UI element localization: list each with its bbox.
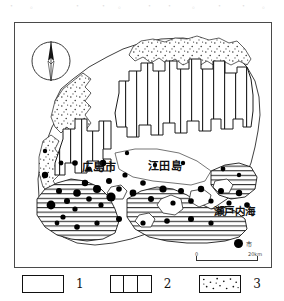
legend-swatch-blank: [22, 275, 64, 293]
map-label-setonaikai: 瀬戸内海: [214, 203, 256, 218]
legend-item-1: 1: [22, 275, 84, 293]
legend: 1 2: [14, 271, 270, 297]
legend-item-3: 3: [199, 275, 261, 293]
map-label-etajima: 江田島: [148, 157, 182, 173]
scan-artifact-1: 。: [30, 0, 37, 10]
map-label-hiroshima: 広島市: [82, 158, 116, 174]
legend-number-1: 1: [76, 277, 84, 291]
north-arrow-icon: [26, 36, 76, 86]
scan-artifact-7: 。: [192, 0, 199, 10]
scan-artifact-10: 。: [262, 0, 269, 10]
stipple-fill: [200, 276, 240, 292]
scale-bar: 0 20km: [196, 254, 266, 266]
scan-artifact-4: 。: [118, 0, 125, 10]
legend-number-2: 2: [164, 277, 172, 291]
legend-number-3: 3: [253, 277, 261, 291]
scale-bar-max-label: 20km: [248, 251, 262, 257]
legend-swatch-stipple: [199, 275, 241, 293]
map-symbol-note: 市: [234, 239, 252, 248]
scan-artifact-8: ・: [216, 0, 223, 10]
filled-circle-icon: [234, 239, 243, 248]
scan-artifact-9: ・: [240, 0, 247, 10]
scale-bar-line: [196, 260, 258, 261]
legend-swatch-vertical-hatch: [110, 275, 152, 293]
scan-artifact-0: ・: [8, 0, 15, 10]
scan-artifact-strip: ・。・・。・・。・・。: [0, 0, 284, 12]
scan-artifact-5: ・: [146, 0, 153, 10]
scan-artifact-3: ・: [100, 0, 107, 10]
map-figure: ・。・・。・・。・・。: [0, 0, 284, 301]
map-symbol-note-label: 市: [246, 239, 252, 248]
scan-artifact-6: ・: [166, 0, 173, 10]
legend-item-2: 2: [110, 275, 172, 293]
scale-bar-min-label: 0: [195, 251, 198, 257]
scan-artifact-2: ・: [74, 0, 81, 10]
